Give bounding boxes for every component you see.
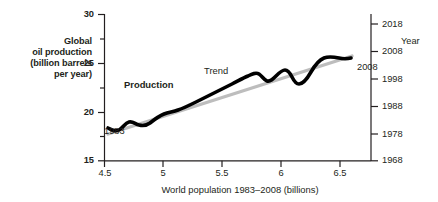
- y-tick-label-30: 30: [72, 9, 94, 20]
- y-tick-label-25: 25: [72, 58, 94, 69]
- oil-production-chart-figure: Global oil production (billion barrels p…: [0, 0, 438, 202]
- x-tick-label-4-5: 4.5: [88, 168, 122, 179]
- x-tick-label-6-5: 6.5: [323, 168, 357, 179]
- x-tick-label-5-5: 5.5: [205, 168, 239, 179]
- production-series-label: Production: [124, 79, 173, 90]
- right-tick-label-1968: 1968: [382, 155, 416, 166]
- right-tick-label-2018: 2018: [382, 19, 416, 30]
- right-tick-label-1998: 1998: [382, 74, 416, 85]
- annotation-start-year: 1983: [104, 126, 125, 137]
- right-tick-label-2008: 2008: [382, 46, 416, 57]
- y-axis-title-line-2: oil production: [0, 47, 92, 58]
- x-tick-label-6: 6: [264, 168, 298, 179]
- y-tick-label-15: 15: [72, 155, 94, 166]
- x-axis-title: World population 1983–2008 (billions): [110, 184, 370, 195]
- y-axis-title-line-4: per year): [0, 69, 92, 80]
- right-tick-label-1978: 1978: [382, 129, 416, 140]
- x-tick-label-5: 5: [146, 168, 180, 179]
- y-axis-title-line-1: Global: [0, 36, 92, 47]
- right-tick-label-1988: 1988: [382, 101, 416, 112]
- annotation-end-year: 2008: [357, 62, 378, 73]
- right-axis-title: Year: [401, 36, 420, 47]
- y-tick-label-20: 20: [72, 107, 94, 118]
- trend-series-label: Trend: [204, 65, 228, 76]
